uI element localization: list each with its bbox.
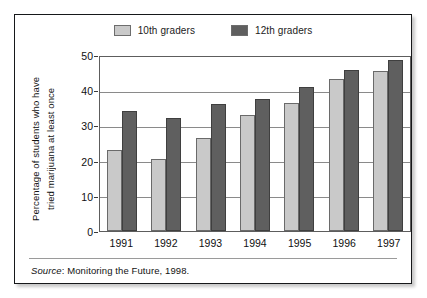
y-axis-title-line-1: Percentage of students who have xyxy=(27,51,43,247)
bar xyxy=(329,79,344,231)
y-axis-title: Percentage of students who have tried ma… xyxy=(27,51,61,247)
bar-group xyxy=(144,57,188,231)
bar xyxy=(344,70,359,231)
bar-group xyxy=(277,57,321,231)
legend-label-12th-graders: 12th graders xyxy=(255,25,312,36)
x-axis-tick-label: 1995 xyxy=(277,237,322,249)
bar-groups xyxy=(100,57,410,231)
y-axis-tick-mark xyxy=(94,197,98,198)
y-axis-tick-mark xyxy=(94,126,98,127)
y-axis-tick-mark xyxy=(94,91,98,92)
legend-item-10th-graders: 10th graders xyxy=(114,25,195,36)
y-axis-tick-mark xyxy=(94,162,98,163)
bar xyxy=(211,104,226,231)
bar xyxy=(299,87,314,231)
y-axis-tick-label: 10 xyxy=(81,191,93,203)
x-axis-tick-label: 1997 xyxy=(366,237,411,249)
x-axis-tick-label: 1993 xyxy=(188,237,233,249)
source-label: Source xyxy=(31,265,62,276)
y-axis-tick-mark xyxy=(94,232,98,233)
chart-legend: 10th graders 12th graders xyxy=(15,25,411,36)
bar xyxy=(284,103,299,231)
legend-swatch-12th-graders xyxy=(231,25,248,36)
source-note: Source: Monitoring the Future, 1998. xyxy=(31,265,189,276)
y-axis-tick-label: 50 xyxy=(81,50,93,62)
bar-group xyxy=(189,57,233,231)
bar xyxy=(240,115,255,232)
bar xyxy=(107,150,122,231)
source-text: Monitoring the Future, 1998. xyxy=(67,265,189,276)
y-axis-tick-labels: 01020304050 xyxy=(67,56,93,232)
x-axis-tick-label: 1991 xyxy=(99,237,144,249)
x-axis-tick-label: 1996 xyxy=(322,237,367,249)
chart-figure: 10th graders 12th graders Percentage of … xyxy=(14,14,412,284)
bar-group xyxy=(321,57,365,231)
legend-swatch-10th-graders xyxy=(114,25,131,36)
y-axis-tick-label: 40 xyxy=(81,85,93,97)
bar xyxy=(196,138,211,231)
bar-group xyxy=(233,57,277,231)
x-axis-tick-label: 1992 xyxy=(144,237,189,249)
bar xyxy=(166,118,181,231)
y-axis-title-line-2: tried marijuana at least once xyxy=(42,51,58,247)
bar-group xyxy=(366,57,410,231)
bar-group xyxy=(100,57,144,231)
legend-label-10th-graders: 10th graders xyxy=(138,25,195,36)
legend-item-12th-graders: 12th graders xyxy=(231,25,312,36)
footer-divider xyxy=(29,258,397,259)
y-axis-tick-mark xyxy=(94,56,98,57)
bar xyxy=(122,111,137,231)
plot-canvas xyxy=(99,56,411,232)
y-axis-tick-label: 0 xyxy=(87,226,93,238)
x-axis-tick-labels: 1991199219931994199519961997 xyxy=(99,237,411,249)
plot-area: 01020304050 1991199219931994199519961997 xyxy=(99,56,411,246)
bar xyxy=(255,99,270,231)
bar xyxy=(373,71,388,232)
bar xyxy=(151,159,166,231)
bar xyxy=(388,60,403,231)
y-axis-tick-label: 20 xyxy=(81,156,93,168)
y-axis-tick-label: 30 xyxy=(81,120,93,132)
x-axis-tick-label: 1994 xyxy=(233,237,278,249)
